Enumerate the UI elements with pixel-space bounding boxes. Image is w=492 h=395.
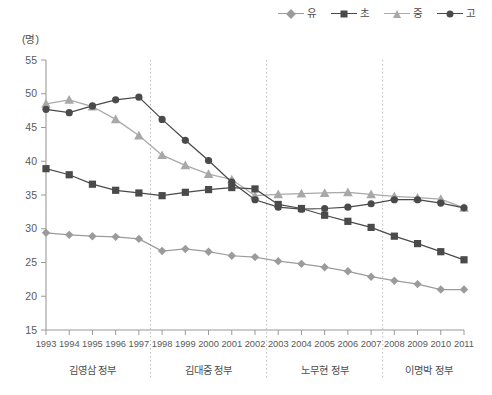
data-point-diamond-icon <box>460 285 468 293</box>
x-axis-tick-label: 2000 <box>198 339 219 349</box>
data-point-circle-icon <box>275 204 282 211</box>
data-point-triangle-icon <box>181 161 191 170</box>
data-point-diamond-icon <box>88 232 96 240</box>
data-point-square-icon <box>42 165 49 172</box>
data-point-diamond-icon <box>367 272 375 280</box>
data-point-square-icon <box>391 233 398 240</box>
data-point-circle-icon <box>298 206 305 213</box>
data-point-circle-icon <box>391 196 398 203</box>
series-line-초 <box>46 169 464 260</box>
data-point-square-icon <box>414 240 421 247</box>
data-point-circle-icon <box>205 157 212 164</box>
data-point-diamond-icon <box>228 252 236 260</box>
data-point-square-icon <box>89 181 96 188</box>
x-axis-tick-label: 1994 <box>59 339 80 349</box>
data-point-triangle-icon <box>134 131 144 140</box>
chart-page: (명) 유초중고 1520253035404550551993199419951… <box>0 0 492 395</box>
data-point-square-icon <box>321 212 328 219</box>
y-axis-tick-label: 50 <box>25 87 37 99</box>
y-axis-tick-label: 15 <box>25 324 37 336</box>
series-유 <box>42 229 468 294</box>
series-초 <box>42 165 467 263</box>
data-point-triangle-icon <box>64 95 74 104</box>
government-period-label: 김대중 정부 <box>185 365 233 376</box>
data-point-circle-icon <box>344 204 351 211</box>
x-axis-tick-label: 2001 <box>221 339 242 349</box>
x-axis-tick-label: 2004 <box>291 339 312 349</box>
data-point-circle-icon <box>437 200 444 207</box>
data-point-circle-icon <box>251 196 258 203</box>
y-axis-tick-label: 55 <box>25 54 37 66</box>
data-point-diamond-icon <box>42 229 50 237</box>
data-point-square-icon <box>437 248 444 255</box>
data-point-triangle-icon <box>111 115 121 124</box>
data-point-square-icon <box>159 192 166 199</box>
data-point-square-icon <box>135 189 142 196</box>
y-axis-tick-label: 35 <box>25 189 37 201</box>
data-point-square-icon <box>460 256 467 263</box>
x-axis-tick-label: 1995 <box>82 339 103 349</box>
data-point-diamond-icon <box>111 233 119 241</box>
x-axis-tick-label: 2003 <box>268 339 289 349</box>
data-point-circle-icon <box>112 96 119 103</box>
data-point-diamond-icon <box>65 231 73 239</box>
x-axis-tick-label: 2008 <box>384 339 405 349</box>
data-point-diamond-icon <box>204 248 212 256</box>
y-axis-tick-label: 40 <box>25 155 37 167</box>
x-axis-tick-label: 2005 <box>314 339 335 349</box>
y-axis-tick-label: 20 <box>25 290 37 302</box>
data-point-diamond-icon <box>181 245 189 253</box>
government-period-label: 이명박 정부 <box>405 365 453 376</box>
data-point-circle-icon <box>321 205 328 212</box>
data-point-diamond-icon <box>344 267 352 275</box>
x-axis-tick-label: 2007 <box>361 339 382 349</box>
data-point-triangle-icon <box>204 169 214 178</box>
data-point-square-icon <box>344 218 351 225</box>
data-point-diamond-icon <box>413 280 421 288</box>
x-axis-tick-label: 1998 <box>152 339 173 349</box>
data-point-circle-icon <box>42 106 49 113</box>
data-point-diamond-icon <box>437 285 445 293</box>
data-point-circle-icon <box>89 102 96 109</box>
data-point-circle-icon <box>368 200 375 207</box>
data-point-diamond-icon <box>297 260 305 268</box>
data-point-square-icon <box>251 185 258 192</box>
data-point-circle-icon <box>135 94 142 101</box>
data-point-circle-icon <box>228 179 235 186</box>
x-axis-tick-label: 2010 <box>430 339 451 349</box>
data-point-circle-icon <box>159 116 166 123</box>
x-axis-tick-label: 1993 <box>36 339 57 349</box>
data-point-square-icon <box>182 189 189 196</box>
data-point-square-icon <box>368 224 375 231</box>
y-axis-tick-label: 45 <box>25 121 37 133</box>
data-point-square-icon <box>205 186 212 193</box>
data-point-circle-icon <box>414 196 421 203</box>
x-axis-tick-label: 1997 <box>129 339 150 349</box>
x-axis-tick-label: 1999 <box>175 339 196 349</box>
x-axis-tick-label: 2002 <box>245 339 266 349</box>
y-axis-tick-label: 30 <box>25 222 37 234</box>
data-point-diamond-icon <box>320 263 328 271</box>
government-period-label: 김영삼 정부 <box>69 365 117 376</box>
data-point-circle-icon <box>460 204 467 211</box>
data-point-diamond-icon <box>251 253 259 261</box>
series-중 <box>41 95 469 212</box>
x-axis-tick-label: 2009 <box>407 339 428 349</box>
data-point-circle-icon <box>182 137 189 144</box>
data-point-diamond-icon <box>274 257 282 265</box>
government-period-label: 노무현 정부 <box>301 365 349 376</box>
x-axis-tick-label: 2011 <box>454 339 474 349</box>
data-point-circle-icon <box>66 109 73 116</box>
x-axis-tick-label: 2006 <box>338 339 359 349</box>
data-point-square-icon <box>66 171 73 178</box>
data-point-diamond-icon <box>135 235 143 243</box>
data-point-square-icon <box>112 187 119 194</box>
x-axis-tick-label: 1996 <box>105 339 126 349</box>
y-axis-tick-label: 25 <box>25 256 37 268</box>
data-point-diamond-icon <box>390 277 398 285</box>
line-chart-plot: 1520253035404550551993199419951996199719… <box>0 0 492 395</box>
data-point-diamond-icon <box>158 247 166 255</box>
